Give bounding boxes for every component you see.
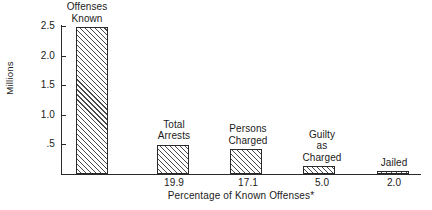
- y-axis-line: [61, 25, 62, 175]
- bar: [230, 149, 262, 174]
- bar-category-label: Jailed: [361, 157, 427, 169]
- y-tick-mark: [62, 144, 66, 145]
- bar-category-label: Total Arrests: [141, 119, 207, 142]
- y-tick-label: .5: [25, 138, 55, 149]
- bar-chart: Millions .51.01.52.02.5 Offenses KnownTo…: [0, 0, 432, 210]
- bar-category-label: Offenses Known: [45, 1, 129, 24]
- x-axis-line: [61, 174, 421, 175]
- y-axis-title: Millions: [4, 48, 15, 108]
- bar-category-label: Guilty as Charged: [287, 129, 357, 164]
- bar: [303, 166, 335, 174]
- bar: [157, 145, 189, 174]
- bar: [76, 27, 108, 174]
- y-tick-mark: [62, 85, 66, 86]
- y-tick-label: 2.0: [25, 50, 55, 61]
- y-tick-label: 1.0: [25, 109, 55, 120]
- bar-percent-label: 2.0: [361, 177, 427, 188]
- y-tick-mark: [62, 26, 66, 27]
- x-axis-title: Percentage of Known Offenses*: [61, 190, 421, 201]
- bar-percent-label: 19.9: [141, 177, 207, 188]
- y-tick-mark: [62, 115, 66, 116]
- bar-category-label: Persons Charged: [213, 123, 283, 146]
- y-tick-label: 1.5: [25, 79, 55, 90]
- bar-percent-label: 5.0: [287, 177, 357, 188]
- y-tick-mark: [62, 56, 66, 57]
- bar-percent-label: 17.1: [213, 177, 283, 188]
